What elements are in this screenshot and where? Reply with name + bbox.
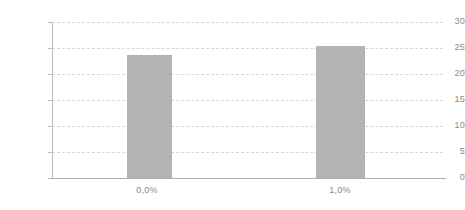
x-tick-label: 1,0%: [300, 185, 380, 195]
gridline-5: [52, 152, 443, 153]
x-axis-baseline: [52, 178, 446, 179]
gridline-10: [52, 126, 443, 127]
gridline-25: [52, 48, 443, 49]
bar-chart: 30 25 20 15 10 5 0 0,0% 1,0%: [0, 0, 465, 210]
gridline-15: [52, 100, 443, 101]
x-tick-label: 0,0%: [107, 185, 187, 195]
bar: [127, 55, 172, 178]
gridline-30: [52, 22, 443, 23]
bar: [316, 46, 365, 178]
plot-area: [52, 22, 443, 178]
gridline-20: [52, 74, 443, 75]
